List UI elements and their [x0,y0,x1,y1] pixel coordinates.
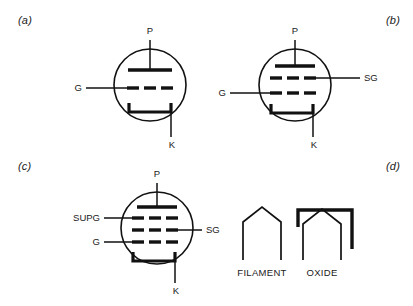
pentode-suppressor-grid-label: SUPG [73,212,100,223]
panel-label-b: (b) [386,14,400,26]
oxide-symbol: OXIDE [298,209,352,278]
triode-grid-label: G [75,82,82,93]
panel-label-c: (c) [18,160,31,172]
pentode-screen-grid-label: SG [206,224,220,235]
filament-caption: FILAMENT [237,267,286,278]
tetrode-cathode-label: K [311,139,318,150]
pentode-cathode [133,252,175,261]
tetrode-plate-label: P [292,25,298,36]
filament-shape [243,207,281,260]
pentode-plate-label: P [154,168,160,179]
tetrode-cathode [271,104,313,113]
filament-symbol: FILAMENT [237,207,286,278]
triode-plate-label: P [147,25,153,36]
panel-label-a: (a) [18,14,32,26]
pentode-cathode-label: K [173,285,180,296]
pentode-grid-label: G [93,236,100,247]
oxide-caption: OXIDE [306,267,337,278]
oxide-filament-shape [303,209,341,260]
tetrode-screen-grid-label: SG [364,72,378,83]
pentode-symbol: P SUPG SG G K [73,168,220,296]
tube-symbols-figure: (a) (b) (c) (d) P G K P [0,0,413,306]
tetrode-grid-label: G [219,87,226,98]
triode-cathode [129,103,171,112]
oxide-sleeve [298,210,352,249]
triode-cathode-label: K [169,139,176,150]
schematic-canvas: P G K P SG [0,0,413,306]
panel-label-d: (d) [386,160,400,172]
triode-symbol: P G K [75,25,186,150]
tetrode-symbol: P SG G K [219,25,378,150]
